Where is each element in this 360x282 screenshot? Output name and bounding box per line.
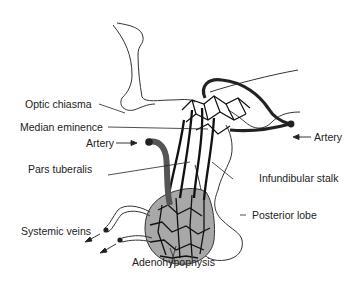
diagram-drawing bbox=[0, 0, 360, 282]
label-median-eminence: Median eminence bbox=[20, 121, 103, 133]
arrow-artery-right-icon bbox=[293, 135, 299, 140]
arrow-artery-left-icon bbox=[131, 141, 137, 146]
label-pars-tuberalis: Pars tuberalis bbox=[28, 163, 92, 175]
label-infundibular-stalk: Infundibular stalk bbox=[259, 172, 338, 184]
pituitary-diagram: Optic chiasma Median eminence Artery Par… bbox=[0, 0, 360, 282]
arrow-vein-upper-icon bbox=[85, 237, 92, 242]
label-adenohypophysis: Adenohypophysis bbox=[132, 256, 215, 268]
label-artery-left: Artery bbox=[86, 137, 114, 149]
label-artery-right: Artery bbox=[314, 131, 342, 143]
artery-right-end bbox=[288, 121, 295, 128]
label-optic-chiasma: Optic chiasma bbox=[25, 98, 92, 110]
long-portal-vessels bbox=[168, 108, 214, 200]
label-systemic-veins: Systemic veins bbox=[21, 225, 91, 237]
label-posterior-lobe: Posterior lobe bbox=[252, 209, 317, 221]
artery-left-vessel bbox=[149, 142, 170, 205]
arrow-vein-lower-icon bbox=[100, 248, 107, 253]
